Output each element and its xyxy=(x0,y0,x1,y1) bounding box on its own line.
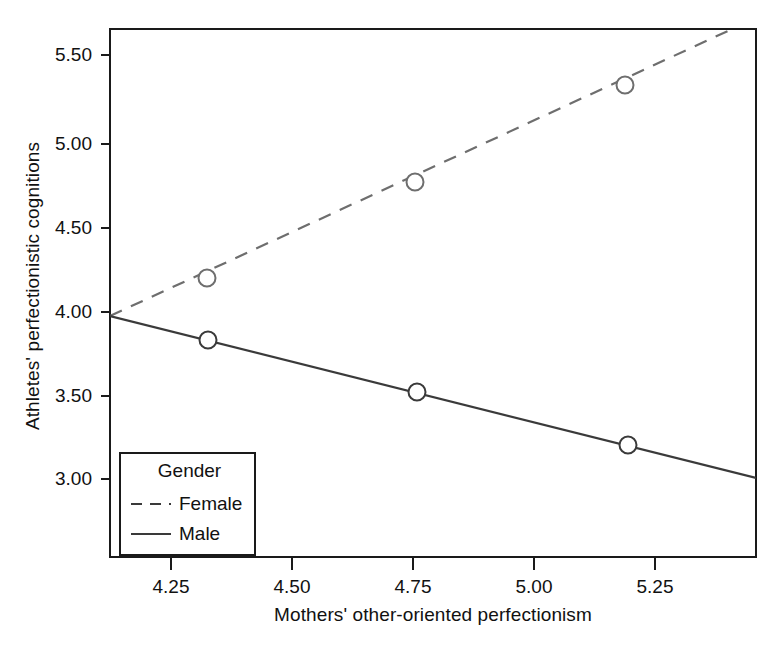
legend-entry-male: Male xyxy=(129,520,254,548)
x-axis-ticks xyxy=(171,557,655,570)
chart-figure: 5.50 5.00 4.50 4.00 3.50 3.00 4.25 4.50 … xyxy=(0,0,777,651)
y-axis-ticks xyxy=(101,55,110,479)
x-tick-label-4-50: 4.50 xyxy=(247,576,337,598)
x-tick-label-5-25: 5.25 xyxy=(610,576,700,598)
legend: Gender Female Male xyxy=(119,452,256,556)
y-axis-title: Athletes' perfectionistic cognitions xyxy=(16,16,50,556)
legend-label-male: Male xyxy=(173,523,220,545)
legend-swatch-dashed-icon xyxy=(129,497,173,511)
x-tick-label-4-25: 4.25 xyxy=(126,576,216,598)
data-point-female-2 xyxy=(407,174,424,191)
legend-swatch-solid-icon xyxy=(129,527,173,541)
data-point-female-3 xyxy=(617,77,634,94)
legend-entry-female: Female xyxy=(129,490,254,518)
data-point-male-1 xyxy=(200,332,217,349)
legend-label-female: Female xyxy=(173,493,242,515)
legend-title: Gender xyxy=(121,460,258,482)
data-point-male-2 xyxy=(409,384,426,401)
x-tick-label-4-75: 4.75 xyxy=(368,576,458,598)
data-point-male-3 xyxy=(620,437,637,454)
x-tick-label-5-00: 5.00 xyxy=(489,576,579,598)
x-axis-title: Mothers' other-oriented perfectionism xyxy=(109,604,757,626)
data-point-female-1 xyxy=(199,270,216,287)
plot-area-svg xyxy=(0,0,777,651)
